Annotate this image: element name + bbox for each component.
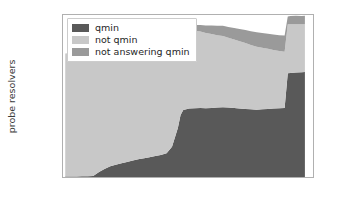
y-tick-mark xyxy=(62,106,63,107)
plot-axes: qmin not qmin not answering qmin 0500010… xyxy=(62,14,314,178)
legend-item-not-answering-qmin: not answering qmin xyxy=(72,46,190,58)
legend-label-qmin: qmin xyxy=(95,23,119,33)
x-tick-mark xyxy=(87,177,88,178)
legend-swatch-not-qmin xyxy=(72,36,89,44)
y-axis-label: probe resolvers xyxy=(5,14,19,178)
y-axis-label-text: probe resolvers xyxy=(7,59,18,133)
x-tick-mark xyxy=(133,177,134,178)
legend-swatch-qmin xyxy=(72,24,89,32)
x-tick-mark xyxy=(178,177,179,178)
legend-label-not-qmin: not qmin xyxy=(95,35,138,45)
x-tick-mark xyxy=(269,177,270,178)
y-tick-mark xyxy=(62,69,63,70)
legend-item-not-qmin: not qmin xyxy=(72,34,190,46)
chart-legend: qmin not qmin not answering qmin xyxy=(67,18,197,62)
legend-item-qmin: qmin xyxy=(72,22,190,34)
legend-swatch-not-answering-qmin xyxy=(72,48,89,56)
y-tick-mark xyxy=(62,142,63,143)
legend-label-not-answering-qmin: not answering qmin xyxy=(95,47,190,57)
x-tick-mark xyxy=(224,177,225,178)
figure: probe resolvers qmin not qmin not answer… xyxy=(0,0,339,205)
y-tick-mark xyxy=(62,33,63,34)
